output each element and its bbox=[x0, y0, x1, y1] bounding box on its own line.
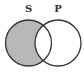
venn-diagram: S P bbox=[0, 0, 84, 75]
shaded-region-s-only bbox=[0, 0, 84, 75]
label-s: S bbox=[25, 3, 32, 14]
label-p: P bbox=[54, 3, 62, 14]
